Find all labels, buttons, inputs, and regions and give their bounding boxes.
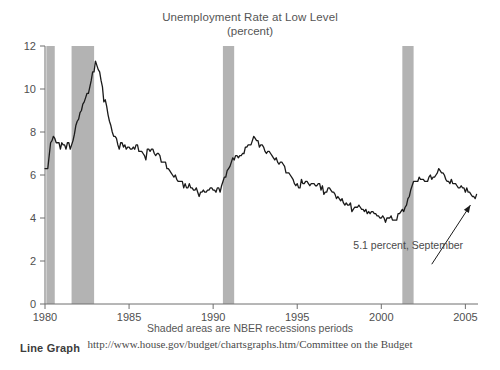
y-tick-label: 12: [24, 40, 36, 52]
y-tick-label: 4: [30, 212, 36, 224]
recession-band: [46, 46, 54, 304]
recession-band: [402, 46, 413, 304]
annotation-arrow-head: [464, 205, 471, 213]
y-tick-label: 2: [30, 255, 36, 267]
chart-container: Unemployment Rate at Low Level (percent)…: [0, 0, 500, 370]
line-graph-label: Line Graph: [20, 342, 80, 354]
y-tick-label: 10: [24, 83, 36, 95]
recession-band: [223, 46, 234, 304]
y-tick-label: 0: [30, 298, 36, 310]
shaded-areas-note: Shaded areas are NBER recessions periods: [0, 322, 500, 334]
annotation-arrow-shaft: [432, 205, 471, 264]
annotation-label: 5.1 percent, September: [353, 239, 463, 251]
y-tick-label: 6: [30, 169, 36, 181]
y-tick-label: 8: [30, 126, 36, 138]
line-chart-plot: 024681012198019851990199520002005 5.1 pe…: [0, 0, 500, 370]
